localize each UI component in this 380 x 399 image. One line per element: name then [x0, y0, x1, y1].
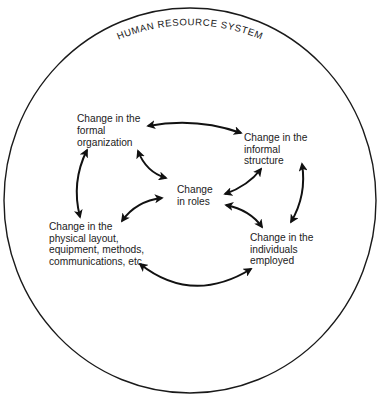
node-formal-organization: Change in the formal organization [77, 113, 143, 148]
arrow-formal-informal [148, 123, 241, 133]
node-roles: Change in roles [177, 184, 216, 207]
arrow-formal-physical [77, 150, 87, 217]
human-resource-system-diagram: HUMAN RESOURCE SYSTEM Change in the form… [0, 0, 380, 399]
node-informal-structure: Change in the informal structure [244, 132, 310, 166]
arrow-informal-individuals [291, 164, 303, 222]
arrow-roles-individuals [226, 205, 262, 227]
node-physical-layout: Change in the physical layout, equipment… [49, 221, 147, 267]
system-title: HUMAN RESOURCE SYSTEM [115, 16, 265, 41]
arrow-roles-physical [122, 198, 162, 221]
arrow-physical-individuals [140, 264, 251, 286]
arrow-formal-roles [138, 151, 166, 178]
node-individuals-employed: Change in the individuals employed [250, 232, 316, 266]
arrow-informal-roles [225, 169, 261, 194]
